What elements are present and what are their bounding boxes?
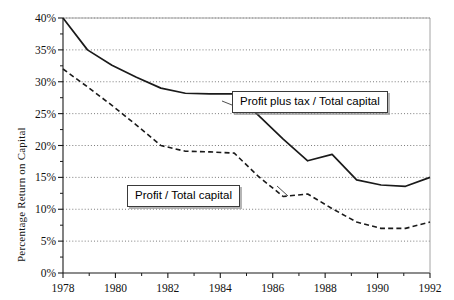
series-label-profit: Profit / Total capital bbox=[127, 185, 240, 207]
x-tick-label: 1978 bbox=[52, 282, 75, 294]
y-tick-group: 0%5%10%15%20%25%30%35%40% bbox=[35, 12, 63, 279]
y-axis-title: Percentage Return on Capital bbox=[15, 127, 27, 262]
gridlines-group bbox=[63, 18, 430, 241]
x-tick-label: 1990 bbox=[366, 282, 389, 294]
y-tick-label: 10% bbox=[35, 203, 57, 215]
chart-figure: 0%5%10%15%20%25%30%35%40% 19781980198219… bbox=[0, 0, 454, 300]
x-tick-group: 19781980198219841986198819901992 bbox=[52, 273, 442, 294]
x-tick-label: 1980 bbox=[104, 282, 127, 294]
y-tick-label: 30% bbox=[35, 76, 57, 88]
x-tick-label: 1982 bbox=[156, 282, 179, 294]
y-tick-label: 5% bbox=[41, 235, 57, 247]
y-tick-label: 20% bbox=[35, 140, 57, 152]
x-tick-label: 1988 bbox=[314, 282, 337, 294]
y-tick-label: 35% bbox=[35, 44, 57, 56]
y-tick-label: 0% bbox=[41, 267, 57, 279]
x-tick-label: 1984 bbox=[209, 282, 232, 294]
callout-leader bbox=[222, 101, 232, 105]
series-label-profit-plus-tax: Profit plus tax / Total capital bbox=[232, 91, 388, 113]
y-tick-label: 25% bbox=[35, 108, 57, 120]
callout-leader bbox=[277, 186, 288, 196]
x-tick-label: 1986 bbox=[261, 282, 284, 294]
line-chart-canvas: 0%5%10%15%20%25%30%35%40% 19781980198219… bbox=[0, 0, 454, 300]
callout-leader-lines bbox=[222, 101, 288, 196]
y-tick-label: 15% bbox=[35, 171, 57, 183]
y-tick-label: 40% bbox=[35, 12, 57, 24]
x-tick-label: 1992 bbox=[419, 282, 442, 294]
